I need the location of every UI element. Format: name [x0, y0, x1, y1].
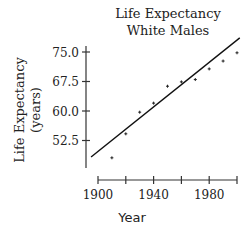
data-point	[208, 67, 211, 70]
x-tick-label: 1900	[83, 188, 114, 202]
y-axis-ticks: 52.560.067.575.0	[52, 46, 90, 149]
y-axis-units: (years)	[28, 87, 43, 133]
data-point	[194, 78, 197, 81]
y-tick-label: 60.0	[52, 105, 79, 119]
data-point	[222, 60, 225, 63]
y-axis-label: Life Expectancy	[12, 57, 27, 163]
data-point	[236, 51, 239, 54]
data-point	[124, 132, 127, 135]
y-tick-label: 67.5	[52, 75, 79, 89]
data-point	[110, 156, 113, 159]
data-point	[152, 102, 155, 105]
data-point	[138, 111, 141, 114]
data-point	[166, 85, 169, 88]
chart: Life Expectancy White Males Life Expecta…	[0, 0, 249, 240]
chart-title: Life Expectancy	[115, 6, 221, 21]
data-points	[110, 51, 238, 159]
y-tick-label: 52.5	[52, 134, 79, 148]
y-tick-label: 75.0	[52, 46, 79, 60]
regression-line	[91, 38, 240, 157]
chart-subtitle: White Males	[127, 23, 210, 38]
x-axis-label: Year	[117, 210, 146, 225]
x-tick-label: 1940	[138, 188, 169, 202]
x-tick-label: 1980	[194, 188, 225, 202]
